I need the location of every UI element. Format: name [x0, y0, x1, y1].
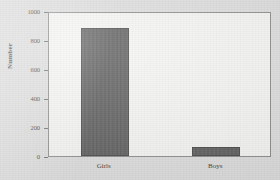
bar-girls [81, 28, 129, 156]
x-axis-label-girls: Girls [97, 162, 111, 170]
bar-boys [192, 147, 240, 156]
y-axis-tick-label: 0 [37, 153, 40, 160]
bar-chart: Number 02004006008001000 GirlsBoys [0, 0, 280, 180]
y-axis-tick-label: 1000 [27, 8, 40, 15]
y-axis-tick-label: 400 [31, 95, 40, 102]
y-axis-tick-label: 600 [31, 66, 40, 73]
plot-area [48, 12, 271, 157]
y-axis-tick-label: 800 [31, 37, 40, 44]
y-axis-tick-mark [44, 157, 48, 158]
y-axis-title: Number [6, 26, 14, 86]
x-axis-label-boys: Boys [208, 162, 222, 170]
y-axis-tick-label: 200 [31, 124, 40, 131]
